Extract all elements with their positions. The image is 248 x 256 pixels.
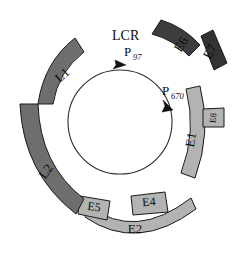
gene-e6[interactable]: E6 <box>152 20 200 56</box>
gene-e5-label: E5 <box>87 199 102 215</box>
gene-l2[interactable]: L2 <box>20 104 84 214</box>
gene-e7[interactable]: E7 <box>200 30 227 70</box>
promoter-p97-arrow-icon <box>113 60 126 69</box>
gene-e8-label: E8 <box>208 112 219 123</box>
promoter-p670-base-label: P <box>162 83 169 98</box>
gene-e4[interactable]: E4 <box>131 192 168 215</box>
gene-e2-label: E2 <box>128 221 142 236</box>
genome-backbone-circle <box>68 70 172 174</box>
lcr-region-label: LCR <box>112 28 140 43</box>
gene-e1[interactable]: E1 <box>181 86 205 178</box>
gene-l2-shape <box>20 104 84 214</box>
gene-l1[interactable]: L1 <box>38 38 84 104</box>
gene-e1-label: E1 <box>182 131 199 148</box>
promoter-p670-subscript-label: 670 <box>171 91 185 101</box>
gene-e4-label: E4 <box>142 194 157 209</box>
promoter-p97-base-label: P <box>124 44 131 59</box>
promoter-p97-subscript-label: 97 <box>133 52 142 62</box>
promoter-p97: P 97 <box>113 44 142 69</box>
genome-diagram-svg: E6 E7 E1 E8 E2 E4 <box>0 0 248 256</box>
gene-e8[interactable]: E8 <box>203 108 224 127</box>
promoter-p670: P 670 <box>162 83 185 112</box>
hpv-genome-map: E6 E7 E1 E8 E2 E4 <box>0 0 248 256</box>
